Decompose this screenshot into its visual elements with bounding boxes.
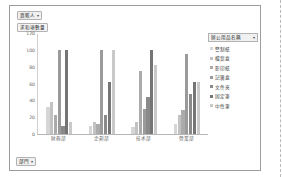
chevron-down-icon: ▾ [253,33,255,42]
bar[interactable] [104,115,107,134]
bar[interactable] [89,126,92,134]
bar[interactable] [139,71,142,134]
bar[interactable] [181,110,184,134]
legend-item-label: 文件夾 [215,84,230,90]
bar[interactable] [61,126,64,134]
legend-item: 固定筆 [210,92,258,102]
legend-swatch-icon [210,85,213,88]
pivot-legend-field-header[interactable]: 辦公用品名稱 ▾ [208,33,258,42]
x-axis-label: 技术部 [123,137,166,149]
x-axis-label: 企劃部 [80,137,123,149]
bar-group [81,34,124,134]
bar[interactable] [174,124,177,134]
legend-swatch-icon [210,104,213,107]
chevron-down-icon: ▾ [31,160,33,164]
bar[interactable] [112,50,115,134]
bar[interactable] [185,54,188,134]
pivot-chart-object[interactable]: 買販人 ▾ 求和項數量 020406080100120 財務部企劃部技术部營業部… [9,5,261,171]
y-axis-tick: 60 [29,82,35,87]
bar[interactable] [135,122,138,134]
bar-group [166,34,209,134]
bar[interactable] [93,122,96,134]
y-axis-tick: 0 [32,133,35,138]
legend-swatch-icon [210,66,213,69]
bar[interactable] [65,50,68,134]
bar[interactable] [69,122,72,134]
chevron-down-icon: ▾ [37,14,39,18]
legend-swatch-icon [210,47,213,50]
bar[interactable] [46,107,49,134]
y-axis-tick: 20 [29,116,35,121]
bar-group [123,34,166,134]
x-axis-labels: 財務部企劃部技术部營業部 [37,137,208,149]
x-axis-label: 財務部 [37,137,80,149]
bar[interactable] [150,50,153,134]
legend-item: 影印紙 [210,63,258,73]
legend-item-label: 中性筆 [215,103,230,109]
bar[interactable] [131,127,134,134]
legend-swatch-icon [210,76,213,79]
bar[interactable] [108,82,111,134]
legend-item: 文件夾 [210,82,258,92]
x-axis-label: 營業部 [165,137,208,149]
legend-item-label: 固定筆 [215,93,230,99]
pivot-axis-field-button[interactable]: 部門 ▾ [16,157,36,166]
legend-title: 辦公用品名稱 [211,33,241,42]
pivot-legend-field-label: 買販人 [20,11,35,20]
legend-swatch-icon [210,95,213,98]
bar[interactable] [154,65,157,134]
bar-groups [38,34,208,134]
bar-group [38,34,81,134]
legend-item: 檔案盒 [210,54,258,64]
y-axis-tick: 120 [26,32,35,37]
legend-item-label: 檔案盒 [215,55,230,61]
legend-item: 記廣盒 [210,73,258,83]
y-axis-tick: 100 [26,49,35,54]
chart-legend[interactable]: 辦公用品名稱 ▾ 警制紙檔案盒影印紙記廣盒文件夾固定筆中性筆 [208,33,258,111]
bar[interactable] [178,115,181,134]
bar[interactable] [143,109,146,134]
bar[interactable] [197,82,200,134]
legend-item-label: 影印紙 [215,65,230,71]
legend-item-list: 警制紙檔案盒影印紙記廣盒文件夾固定筆中性筆 [208,44,258,111]
legend-item-label: 警制紙 [215,46,230,52]
plot-area[interactable] [37,34,208,135]
bar[interactable] [146,97,149,134]
legend-item: 警制紙 [210,44,258,54]
legend-item-label: 記廣盒 [215,74,230,80]
y-axis: 020406080100120 [14,34,36,135]
bar[interactable] [193,82,196,134]
legend-item: 中性筆 [210,101,258,111]
bar[interactable] [58,50,61,134]
bar[interactable] [54,115,57,134]
y-axis-tick: 40 [29,99,35,104]
pivot-axis-field-label: 部門 [19,157,29,166]
bar[interactable] [50,102,53,134]
bar[interactable] [96,124,99,134]
column-break-marker [280,0,281,177]
y-axis-tick: 80 [29,65,35,70]
bar[interactable] [100,50,103,134]
bar[interactable] [189,94,192,134]
legend-swatch-icon [210,57,213,60]
pivot-legend-field-button[interactable]: 買販人 ▾ [17,11,42,20]
